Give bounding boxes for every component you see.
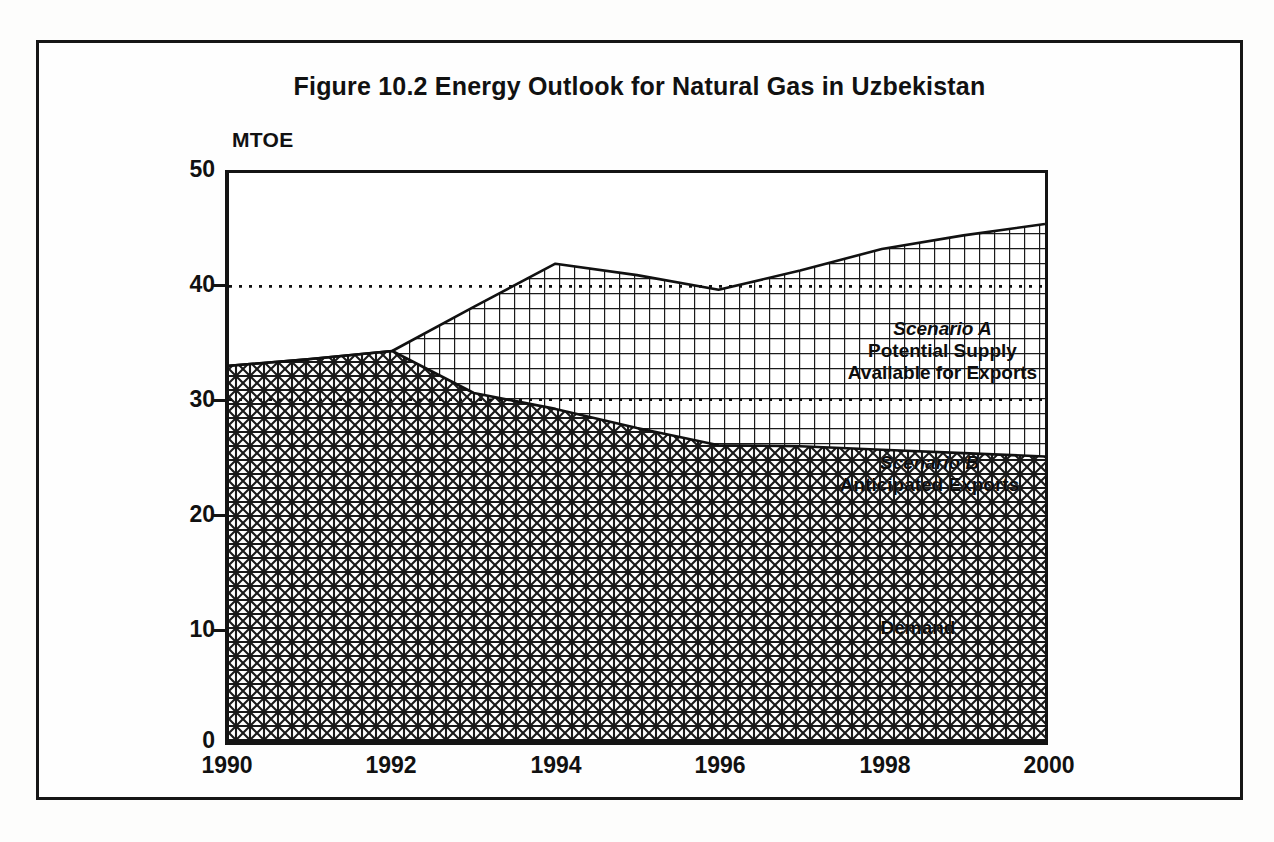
x-tick-label-1992: 1992 bbox=[331, 752, 451, 779]
x-tick-label-1996: 1996 bbox=[660, 752, 780, 779]
x-tick-label-2000: 2000 bbox=[989, 752, 1109, 779]
x-tick-label-1998: 1998 bbox=[825, 752, 945, 779]
y-tick-label-0: 0 bbox=[145, 727, 215, 754]
plot-inner bbox=[229, 173, 1045, 740]
y-tick-label-10: 10 bbox=[145, 616, 215, 643]
plot-area bbox=[225, 170, 1048, 745]
x-tick-label-1990: 1990 bbox=[167, 752, 287, 779]
page-title: Figure 10.2 Energy Outlook for Natural G… bbox=[36, 72, 1243, 101]
y-tick-label-50: 50 bbox=[145, 156, 215, 183]
x-tick-label-1994: 1994 bbox=[496, 752, 616, 779]
y-tick-label-30: 30 bbox=[145, 386, 215, 413]
y-tick-label-40: 40 bbox=[145, 271, 215, 298]
y-axis-title: MTOE bbox=[232, 128, 293, 152]
figure-root: Figure 10.2 Energy Outlook for Natural G… bbox=[0, 0, 1274, 842]
area-chart-svg bbox=[229, 173, 1045, 740]
y-tick-label-20: 20 bbox=[145, 501, 215, 528]
